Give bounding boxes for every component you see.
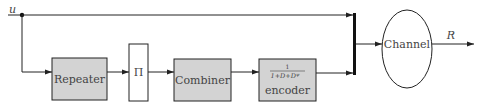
combiner-label: Combiner — [175, 74, 231, 87]
interleaver-block: Π — [129, 44, 148, 101]
encoder-denominator-exponent: ψ — [296, 72, 300, 77]
branch-to-repeater-line — [22, 15, 52, 72]
repeater-label: Repeater — [54, 73, 106, 86]
repeater-block: Repeater — [52, 58, 107, 100]
combiner-block: Combiner — [174, 59, 231, 101]
input-label-u: u — [9, 3, 16, 16]
encoder-block: 1 1+D+Dψ encoder — [259, 59, 316, 101]
encoder-label: encoder — [265, 84, 311, 97]
encoder-transfer-numerator: 1 — [286, 63, 290, 70]
encoder-transfer-denominator: 1+D+Dψ — [271, 72, 300, 81]
output-label-r: R — [446, 29, 455, 42]
channel-label: Channel — [384, 38, 431, 51]
interleaver-label: Π — [134, 66, 144, 79]
encoder-denominator-base: 1+D+D — [271, 72, 297, 80]
rate-system-block-diagram: u Repeater Π Combiner 1 1+D+Dψ encoder — [0, 0, 485, 108]
channel-block: Channel — [382, 10, 432, 88]
